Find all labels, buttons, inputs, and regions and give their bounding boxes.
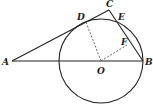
segment-od <box>86 22 101 61</box>
segment-ac <box>12 10 109 61</box>
label-b: B <box>144 57 153 67</box>
label-f: F <box>120 37 128 47</box>
label-d: D <box>76 12 85 22</box>
geometry-figure: A B O C D E F <box>0 0 153 111</box>
label-e: E <box>117 12 125 22</box>
segment-of <box>101 45 127 61</box>
label-o: O <box>97 66 105 76</box>
label-c: C <box>106 0 114 9</box>
label-a: A <box>1 57 9 67</box>
